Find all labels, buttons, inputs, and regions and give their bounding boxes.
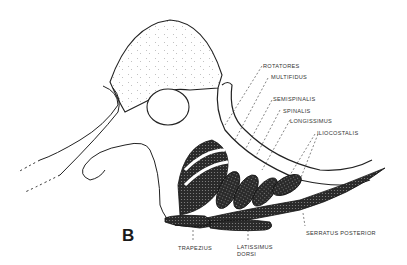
spinal-canal <box>147 89 189 125</box>
label-multifidus: MULTIFIDUS <box>271 74 307 81</box>
label-trapezius: TRAPEZIUS <box>178 245 212 252</box>
label-iliocostalis: ILIOCOSTALIS <box>317 130 358 137</box>
label-spinalis: SPINALIS <box>283 108 311 115</box>
label-semispinalis: SEMISPINALIS <box>273 96 315 103</box>
label-rotatores: ROTATORES <box>263 63 300 70</box>
label-latissimus-line1: LATISSIMUS <box>237 244 273 251</box>
label-longissimus: LONGISSIMUS <box>290 118 332 125</box>
panel-label: B <box>122 226 134 246</box>
label-latissimus-dorsi: LATISSIMUS DORSI <box>237 244 273 258</box>
label-serratus-posterior: SERRATUS POSTERIOR <box>306 230 376 237</box>
label-latissimus-line2: DORSI <box>237 251 273 258</box>
